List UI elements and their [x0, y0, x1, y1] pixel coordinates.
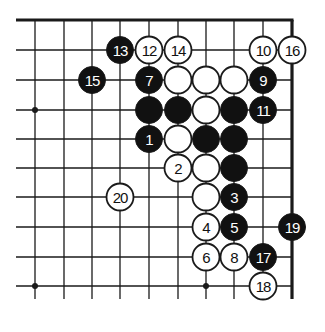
- black-stone: [193, 126, 220, 153]
- move-number: 20: [113, 189, 128, 206]
- white-stone: [221, 67, 248, 94]
- move-number: 8: [230, 249, 238, 266]
- white-stone: 10: [250, 37, 277, 64]
- move-number: 19: [285, 219, 300, 236]
- white-stone: [193, 155, 220, 182]
- move-number: 17: [256, 249, 271, 266]
- stone-disc: [193, 67, 220, 94]
- stone-disc: [165, 67, 192, 94]
- stone-disc: [165, 97, 192, 124]
- move-number: 1: [145, 131, 153, 148]
- white-stone: [165, 67, 192, 94]
- white-stone: [193, 67, 220, 94]
- move-number: 18: [256, 278, 271, 295]
- white-stone: [193, 184, 220, 211]
- stone-disc: [193, 126, 220, 153]
- white-stone: 2: [165, 155, 192, 182]
- white-stone: 6: [193, 244, 220, 271]
- stone-disc: [165, 126, 192, 153]
- go-board-diagram: 1312141016157911122034519681718: [0, 0, 325, 332]
- move-number: 11: [256, 102, 270, 119]
- move-number: 6: [202, 249, 210, 266]
- move-number: 9: [259, 72, 267, 89]
- black-stone: 3: [221, 184, 248, 211]
- black-stone: [221, 126, 248, 153]
- black-stone: [221, 97, 248, 124]
- white-stone: [165, 126, 192, 153]
- black-stone: 11: [250, 97, 277, 124]
- move-number: 15: [85, 72, 100, 89]
- stone-disc: [193, 184, 220, 211]
- white-stone: 16: [279, 37, 306, 64]
- star-point: [32, 107, 38, 113]
- white-stone: 18: [250, 273, 277, 300]
- move-number: 2: [174, 160, 182, 177]
- move-number: 5: [230, 219, 238, 236]
- stone-disc: [221, 155, 248, 182]
- black-stone: 5: [221, 214, 248, 241]
- move-number: 16: [285, 42, 300, 59]
- stone-disc: [193, 155, 220, 182]
- black-stone: 1: [136, 126, 163, 153]
- stone-disc: [221, 126, 248, 153]
- black-stone: [165, 97, 192, 124]
- move-number: 12: [142, 42, 157, 59]
- white-stone: 4: [193, 214, 220, 241]
- white-stone: 8: [221, 244, 248, 271]
- black-stone: 19: [279, 214, 306, 241]
- star-point: [32, 283, 38, 289]
- white-stone: 14: [165, 37, 192, 64]
- move-number: 10: [256, 42, 271, 59]
- black-stone: 15: [79, 67, 106, 94]
- move-number: 4: [202, 219, 210, 236]
- black-stone: [221, 155, 248, 182]
- stone-disc: [193, 97, 220, 124]
- black-stone: 13: [107, 37, 134, 64]
- move-number: 14: [171, 42, 186, 59]
- black-stone: 17: [250, 244, 277, 271]
- move-number: 7: [145, 72, 153, 89]
- white-stone: 20: [107, 184, 134, 211]
- stone-disc: [136, 97, 163, 124]
- star-point: [203, 283, 209, 289]
- black-stone: 7: [136, 67, 163, 94]
- move-number: 13: [113, 42, 128, 59]
- stone-disc: [221, 67, 248, 94]
- white-stone: [193, 97, 220, 124]
- white-stone: 12: [136, 37, 163, 64]
- black-stone: 9: [250, 67, 277, 94]
- black-stone: [136, 97, 163, 124]
- stone-disc: [221, 97, 248, 124]
- move-number: 3: [230, 189, 238, 206]
